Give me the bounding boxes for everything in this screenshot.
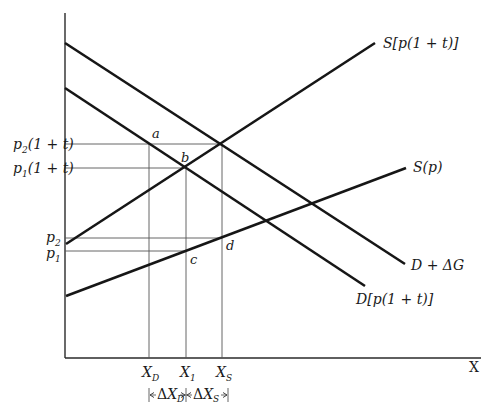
demand-plus-g-label: D + ΔG <box>410 257 464 273</box>
quantity-label-xs: XS <box>215 364 232 383</box>
tax-incidence-diagram: X S[p(1 + t)] S(p) D + ΔG D[p(1 + t)] p2… <box>0 0 491 408</box>
quantity-label-xd: XD <box>141 364 159 383</box>
delta-xd-label: ΔXD <box>157 386 184 404</box>
demand-tax-curve <box>65 88 365 286</box>
point-c-label: c <box>190 252 198 267</box>
x-axis-label: X <box>469 359 479 375</box>
delta-bracket: ΔXD ΔXS <box>149 386 228 404</box>
demand-tax-label: D[p(1 + t)] <box>355 291 434 307</box>
point-b-label: b <box>181 150 189 165</box>
point-d-label: d <box>226 238 234 253</box>
quantity-label-x1: X1 <box>179 364 196 383</box>
supply-tax-label: S[p(1 + t)] <box>383 35 459 51</box>
point-a-label: a <box>152 126 160 141</box>
delta-xs-label: ΔXS <box>193 386 219 404</box>
supply-label: S(p) <box>413 159 442 175</box>
demand-plus-g-curve <box>65 43 405 264</box>
